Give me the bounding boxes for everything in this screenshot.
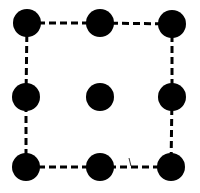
dot-r3c1 — [12, 153, 40, 181]
dot-r2c2 — [86, 83, 114, 111]
dot-r2c1 — [12, 83, 40, 111]
dot-r2c3 — [158, 83, 186, 111]
dot-r3c3 — [157, 153, 185, 181]
dot-r3c2 — [86, 153, 114, 181]
dot-r1c2 — [86, 9, 114, 37]
dot-r1c1 — [13, 9, 41, 37]
nine-dot-square-diagram — [0, 0, 200, 193]
dot-r1c3 — [158, 10, 186, 38]
